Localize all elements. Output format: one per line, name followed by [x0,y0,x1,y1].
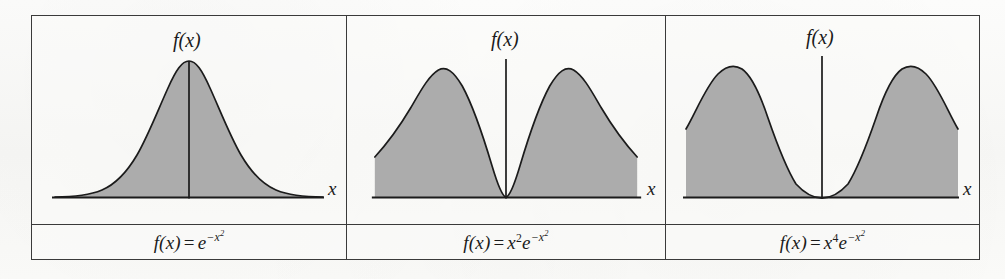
x-axis-label-2: x [647,179,655,198]
caption-cell-2: f(x)=x2e−x2 [347,224,665,259]
caption-1-exponent: −x2 [206,231,224,244]
figure-panel-3: f(x) x f(x)=x4e−x2 [666,16,979,259]
x-axis-label-3: x [963,179,971,198]
y-axis-label-2: f(x) [491,29,519,49]
caption-3-exponent: −x2 [847,231,865,244]
caption-cell-3: f(x)=x4e−x2 [666,224,979,259]
caption-1-eq: = [181,232,198,253]
y-axis-label-3: f(x) [806,27,834,47]
x-axis-label-1: x [328,179,336,198]
caption-1-lhs: f(x) [154,232,181,253]
caption-2-factor-base: x [507,232,516,253]
caption-3-base: e [839,232,848,253]
figure-panel-1: f(x) x f(x)=e−x2 [32,16,346,259]
caption-2: f(x)=x2e−x2 [463,233,548,252]
caption-3-eq: = [807,232,824,253]
plot-area-1: f(x) x [32,16,346,224]
caption-2-base: e [522,232,531,253]
caption-2-lhs: f(x) [463,232,490,253]
caption-cell-1: f(x)=e−x2 [32,224,346,259]
caption-3: f(x)=x4e−x2 [780,233,865,252]
plot-area-3: f(x) x [666,16,979,224]
plot-area-2: f(x) x [347,16,665,224]
caption-3-lhs: f(x) [780,232,807,253]
caption-1: f(x)=e−x2 [154,233,225,252]
figure-panel-2: f(x) x f(x)=x2e−x2 [346,16,666,259]
caption-2-exponent: −x2 [531,231,549,244]
y-axis-label-1: f(x) [173,30,201,50]
figure-frame: f(x) x f(x)=e−x2 f(x) x [31,15,980,260]
caption-2-eq: = [490,232,507,253]
